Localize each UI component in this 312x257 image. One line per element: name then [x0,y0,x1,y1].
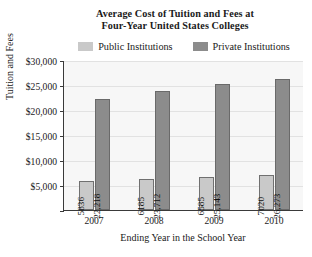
x-axis-label-2010: 2010 [264,215,283,226]
chart-title-line-2: Four-Year United States Colleges [46,20,304,32]
chart-title: Average Cost of Tuition and Fees at Four… [46,8,304,32]
x-axis-label-2008: 2008 [144,215,163,226]
x-axis-label-2007: 2007 [84,215,103,226]
y-axis-tick [60,211,64,212]
y-axis-tick-label: $30,000 [26,56,57,67]
x-axis-title: Ending Year in the School Year [63,232,303,243]
bar-value-label: 6585 [197,197,206,215]
y-axis-tick-label: $5,000 [31,181,57,192]
y-axis-tick-label: $15,000 [26,131,57,142]
chart-legend: Public Institutions Private Institutions [60,41,308,52]
legend-label-private: Private Institutions [213,41,290,52]
plot-area: 583622,218618523,712658525,143702026,273… [63,61,303,211]
y-axis-title: Tuition and Fees [4,33,15,100]
bar-value-label: 7020 [257,197,266,215]
legend-swatch-public-icon [78,42,93,51]
chart-container: Average Cost of Tuition and Fees at Four… [0,0,312,257]
legend-item-public: Public Institutions [78,41,172,52]
y-axis-tick-label: $10,000 [26,156,57,167]
plot-wrapper: 583622,218618523,712658525,143702026,273… [63,61,303,211]
y-axis-tick-label: $25,000 [26,81,57,92]
x-axis-label-2009: 2009 [204,215,223,226]
bar-value-label: 6185 [137,197,146,215]
legend-swatch-private-icon [193,42,208,51]
bar-private-2008[interactable]: 23,712 [155,91,170,210]
bar-private-2009[interactable]: 25,143 [215,84,230,210]
chart-title-line-1: Average Cost of Tuition and Fees at [46,8,304,20]
bar-value-label: 5836 [77,197,86,215]
bar-private-2007[interactable]: 22,218 [95,99,110,210]
bar-private-2010[interactable]: 26,273 [275,79,290,210]
legend-item-private: Private Institutions [193,41,290,52]
y-axis-tick-label: $20,000 [26,106,57,117]
legend-label-public: Public Institutions [98,41,172,52]
bars-layer: 583622,218618523,712658525,143702026,273 [64,61,303,210]
